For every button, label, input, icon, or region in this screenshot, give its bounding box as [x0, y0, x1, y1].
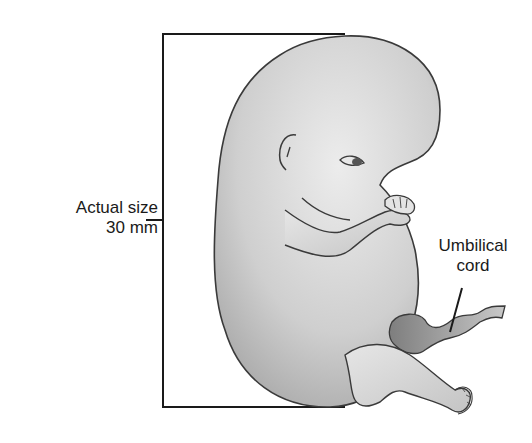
embryo-leg	[345, 344, 470, 411]
umbilical-cord-label: Umbilical cord	[418, 236, 528, 276]
cord-text: cord	[418, 256, 528, 276]
size-value-text: 30 mm	[30, 218, 158, 238]
embryo-diagram: Actual size 30 mm Umbilical cord	[0, 0, 532, 443]
umbilical-text: Umbilical	[418, 236, 528, 256]
actual-size-label: Actual size 30 mm	[30, 198, 158, 238]
actual-size-text: Actual size	[30, 198, 158, 218]
